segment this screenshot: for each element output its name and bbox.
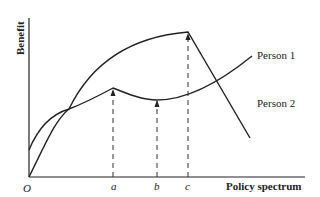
curve-person-2 [29,32,250,177]
label-person-2: Person 2 [257,97,295,109]
arrowhead-a [111,89,116,96]
benefit-policy-diagram: Benefit Policy spectrum O a b c Person 1… [0,0,320,197]
arrowhead-b [155,100,160,107]
x-mark-c: c [185,180,190,192]
x-axis-label: Policy spectrum [226,180,301,192]
x-mark-b: b [154,180,160,192]
curve-person-1 [29,56,252,150]
label-person-1: Person 1 [257,49,295,61]
origin-label: O [23,182,31,194]
y-axis-label: Benefit [14,21,26,55]
x-mark-a: a [111,180,117,192]
